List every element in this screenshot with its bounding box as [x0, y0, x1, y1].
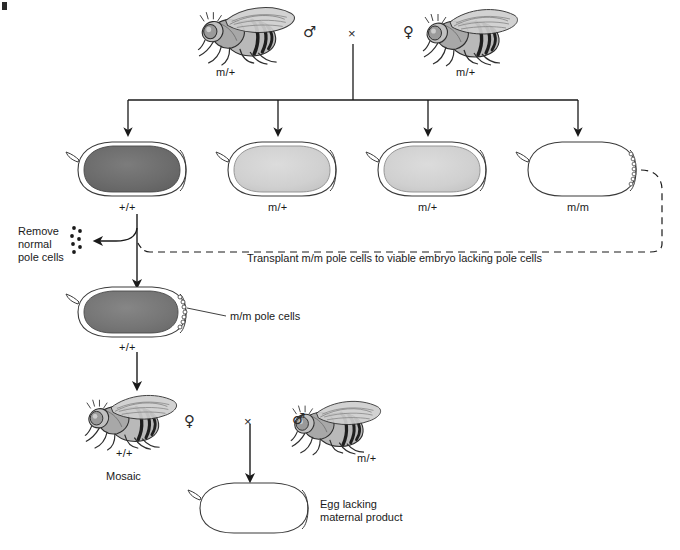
cross-symbol-parent: × — [348, 26, 356, 41]
embryo-genotype-1: +/+ — [119, 201, 136, 215]
mosaic-embryo-genotype: +/+ — [119, 341, 136, 355]
removed-pole-cell-dots — [70, 226, 82, 254]
female-symbol-parent: ♀ — [403, 23, 414, 41]
mosaic-pole-cells-label: m/m pole cells — [230, 310, 300, 324]
diagram-canvas — [0, 0, 680, 550]
transplant-caption: Transplant m/m pole cells to viable embr… — [247, 252, 542, 266]
embryo-genotype-2: m/+ — [268, 201, 288, 215]
remove-pole-cells-line2: normal — [18, 238, 52, 252]
final-egg-label-line2: maternal product — [320, 511, 403, 525]
parent-male-genotype: m/+ — [216, 66, 236, 80]
parent-male-fly — [198, 8, 294, 66]
final-egg — [188, 483, 308, 533]
adult-female-fly — [85, 395, 177, 450]
embryo-m-plus-2 — [366, 142, 486, 196]
embryo-genotype-4: m/m — [567, 201, 589, 215]
remove-pole-cells-line1: Remove — [18, 225, 59, 239]
female-symbol-adult: ♀ — [184, 412, 195, 430]
embryo-genotype-3: m/+ — [418, 201, 438, 215]
embryo-plus-plus — [66, 142, 186, 196]
cross-symbol-adult: × — [244, 414, 252, 429]
genetics-diagram: ♂ × ♀ m/+ m/+ +/+ m/+ m/+ m/m Remove nor… — [0, 0, 680, 550]
parent-female-genotype: m/+ — [456, 66, 476, 80]
mosaic-embryo — [66, 287, 226, 337]
embryo-m-plus-1 — [216, 142, 336, 196]
pole-cell-removal-lines — [98, 214, 137, 284]
adult-female-genotype: +/+ — [116, 447, 133, 461]
remove-pole-cells-line3: pole cells — [18, 251, 64, 265]
cross-distribution-lines — [128, 44, 578, 132]
adult-female-note: Mosaic — [106, 470, 141, 484]
embryo-m-m — [516, 142, 636, 196]
male-symbol-parent: ♂ — [303, 23, 316, 41]
adult-male-genotype: m/+ — [357, 452, 377, 466]
male-symbol-adult: ♂ — [292, 410, 305, 428]
final-egg-label-line1: Egg lacking — [320, 498, 377, 512]
parent-female-fly — [423, 10, 517, 66]
